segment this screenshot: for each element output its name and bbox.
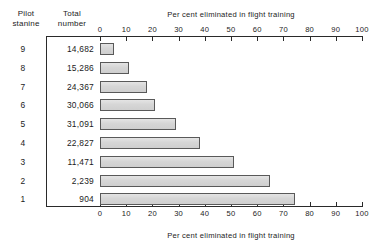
row-stanine-label-7: 7 — [6, 81, 40, 93]
row-total-number-7: 24,367 — [48, 81, 94, 93]
bottom-axis-tick-label-20: 20 — [141, 209, 163, 218]
row-stanine-label-9: 9 — [6, 43, 40, 55]
row-total-number-8: 15,286 — [48, 62, 94, 74]
bar-stanine-3 — [100, 156, 234, 168]
bottom-axis-tick-label-30: 30 — [168, 209, 190, 218]
bottom-axis-tick-90 — [336, 202, 337, 207]
top-axis-title: Per cent eliminated in flight training — [100, 10, 362, 19]
column-header-total-number: Total number — [50, 9, 94, 28]
row-total-number-4: 22,827 — [48, 137, 94, 149]
row-stanine-label-4: 4 — [6, 137, 40, 149]
top-axis-tick-label-90: 90 — [325, 25, 347, 34]
bottom-axis-tick-label-80: 80 — [299, 209, 321, 218]
top-axis-tick-label-40: 40 — [194, 25, 216, 34]
bottom-axis-tick-label-60: 60 — [246, 209, 268, 218]
bottom-axis-tick-label-40: 40 — [194, 209, 216, 218]
bottom-axis-title: Per cent eliminated in flight training — [100, 231, 362, 240]
row-stanine-label-3: 3 — [6, 156, 40, 168]
row-stanine-label-1: 1 — [6, 193, 40, 205]
bar-stanine-6 — [100, 99, 155, 111]
bottom-axis-tick-100 — [362, 202, 363, 207]
top-axis-tick-label-100: 100 — [351, 25, 373, 34]
row-total-number-1: 904 — [48, 193, 94, 205]
top-axis-tick-20 — [152, 36, 153, 41]
top-axis-tick-60 — [257, 36, 258, 41]
top-axis-tick-70 — [283, 36, 284, 41]
bar-stanine-9 — [100, 43, 114, 55]
top-axis-tick-0 — [100, 36, 101, 41]
row-total-number-3: 11,471 — [48, 156, 94, 168]
top-axis-tick-label-20: 20 — [141, 25, 163, 34]
row-total-number-9: 14,682 — [48, 43, 94, 55]
bottom-axis-tick-label-100: 100 — [351, 209, 373, 218]
top-axis-tick-100 — [362, 36, 363, 41]
top-axis-tick-label-30: 30 — [168, 25, 190, 34]
bottom-axis-tick-label-10: 10 — [115, 209, 137, 218]
bottom-axis-tick-80 — [310, 202, 311, 207]
top-axis-tick-40 — [205, 36, 206, 41]
top-axis-tick-label-0: 0 — [89, 25, 111, 34]
bar-stanine-4 — [100, 137, 200, 149]
row-stanine-label-2: 2 — [6, 175, 40, 187]
row-stanine-label-5: 5 — [6, 118, 40, 130]
bottom-axis-tick-label-0: 0 — [89, 209, 111, 218]
row-total-number-6: 30,066 — [48, 99, 94, 111]
pilot-stanine-elimination-chart: Pilot stanine Total number Per cent elim… — [0, 0, 375, 248]
top-axis-tick-label-50: 50 — [220, 25, 242, 34]
bottom-axis-tick-label-50: 50 — [220, 209, 242, 218]
top-axis-tick-label-80: 80 — [299, 25, 321, 34]
top-axis-tick-label-60: 60 — [246, 25, 268, 34]
bar-stanine-8 — [100, 62, 129, 74]
top-axis-tick-label-10: 10 — [115, 25, 137, 34]
bar-stanine-5 — [100, 118, 176, 130]
top-axis-tick-30 — [179, 36, 180, 41]
top-axis-tick-80 — [310, 36, 311, 41]
bar-stanine-7 — [100, 81, 147, 93]
row-total-number-2: 2,239 — [48, 175, 94, 187]
top-axis-tick-50 — [231, 36, 232, 41]
top-axis-tick-10 — [126, 36, 127, 41]
bar-stanine-2 — [100, 175, 270, 187]
row-stanine-label-6: 6 — [6, 99, 40, 111]
row-total-number-5: 31,091 — [48, 118, 94, 130]
bottom-axis-tick-label-70: 70 — [272, 209, 294, 218]
bar-stanine-1 — [100, 193, 295, 205]
top-axis-tick-label-70: 70 — [272, 25, 294, 34]
top-axis-tick-90 — [336, 36, 337, 41]
bottom-axis-tick-label-90: 90 — [325, 209, 347, 218]
column-header-pilot-stanine: Pilot stanine — [6, 9, 46, 28]
plot-frame-left-rule — [46, 36, 47, 207]
row-stanine-label-8: 8 — [6, 62, 40, 74]
